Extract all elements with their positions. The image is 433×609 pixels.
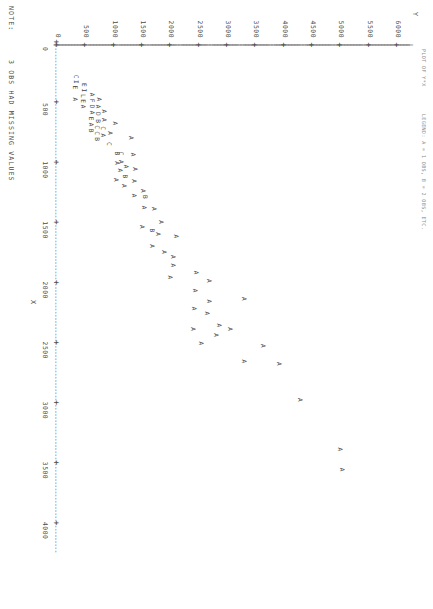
y-axis-tick: + xyxy=(137,41,145,49)
data-point-marker: A xyxy=(139,225,145,230)
data-point-marker: A xyxy=(337,447,343,452)
data-point-marker: A xyxy=(107,131,113,136)
note-text: 3 OBS HAD MISSING VALUES xyxy=(7,60,15,182)
data-point-marker: A xyxy=(114,161,120,166)
data-point-marker: E xyxy=(81,83,87,88)
x-tick-label: 1500 xyxy=(41,221,49,238)
data-point-marker: L xyxy=(80,94,86,99)
x-axis-tick: + xyxy=(52,340,60,345)
data-point-marker: A xyxy=(113,178,119,183)
data-point-marker: A xyxy=(339,468,345,473)
y-tick-label: 1000 xyxy=(111,6,119,38)
x-tick-label: 3000 xyxy=(41,402,49,419)
y-tick-label: 500 xyxy=(82,6,90,38)
data-point-marker: A xyxy=(121,184,127,189)
y-axis-tick: + xyxy=(80,41,88,49)
x-axis-tick: + xyxy=(52,160,60,165)
y-tick-label: 2000 xyxy=(167,6,175,38)
plot-header-legend: PLOT OF Y*X LEGEND: A = 1 OBS, B = 2 OBS… xyxy=(421,49,427,230)
x-tick-label: 500 xyxy=(41,103,49,116)
data-point-marker: A xyxy=(72,97,78,102)
x-axis-tick: + xyxy=(52,460,60,465)
data-point-marker: I xyxy=(73,80,79,85)
data-point-marker: A xyxy=(167,275,173,280)
data-point-marker: A xyxy=(193,271,199,276)
y-axis: ||||||||||||||||||||||||||||||||||||||||… xyxy=(59,41,415,49)
data-point-marker: A xyxy=(297,398,303,403)
x-axis-tick: + xyxy=(52,220,60,225)
y-tick-label: 5500 xyxy=(366,6,374,38)
x-tick-label: 2500 xyxy=(41,342,49,359)
data-point-marker: A xyxy=(129,153,135,158)
data-point-marker: E xyxy=(88,117,94,122)
data-point-marker: A xyxy=(227,327,233,332)
y-axis-tick: + xyxy=(109,41,117,49)
data-point-marker: B xyxy=(149,229,155,234)
data-point-marker: E xyxy=(72,85,78,90)
data-point-marker: A xyxy=(205,299,211,304)
data-point-marker: C xyxy=(73,75,79,80)
data-point-marker: B xyxy=(88,129,94,134)
data-point-marker: A xyxy=(88,123,94,128)
data-point-marker: A xyxy=(140,189,146,194)
y-tick-label: 3000 xyxy=(224,6,232,38)
data-point-marker: A xyxy=(89,93,95,98)
data-point-marker: B xyxy=(114,152,120,157)
data-point-marker: A xyxy=(198,342,204,347)
y-tick-label: 3500 xyxy=(252,6,260,38)
data-point-marker: A xyxy=(205,279,211,284)
x-axis-tick: + xyxy=(52,400,60,405)
y-tick-label: 6000 xyxy=(394,6,402,38)
y-tick-label: 1500 xyxy=(139,6,147,38)
y-axis-tick: + xyxy=(335,41,343,49)
data-point-marker: A xyxy=(141,206,147,211)
data-point-marker: A xyxy=(216,324,222,329)
data-point-marker: I xyxy=(80,88,86,93)
x-axis-tick: + xyxy=(52,100,60,105)
data-point-marker: A xyxy=(101,110,107,115)
y-axis-tick: + xyxy=(307,41,315,49)
data-point-marker: A xyxy=(213,333,219,338)
y-axis-tick: + xyxy=(392,41,400,49)
data-point-marker: E xyxy=(80,99,86,104)
x-tick-label: 4000 xyxy=(41,522,49,539)
data-point-marker: A xyxy=(276,362,282,367)
data-point-marker: D xyxy=(89,105,95,110)
y-tick-label: 4500 xyxy=(309,6,317,38)
data-point-marker: B xyxy=(94,119,100,124)
data-point-marker: F xyxy=(89,99,95,104)
y-axis-name: Y xyxy=(411,12,419,17)
x-tick-label: 2000 xyxy=(41,281,49,298)
note-label: NOTE: xyxy=(7,6,15,31)
data-point-marker: A xyxy=(132,167,138,172)
sas-plot-page: PLOT OF Y*X LEGEND: A = 1 OBS, B = 2 OBS… xyxy=(0,0,433,609)
y-tick-label: 0 xyxy=(54,6,62,38)
data-point-marker: C xyxy=(106,142,112,147)
data-point-marker: B xyxy=(122,174,128,179)
data-point-marker: A xyxy=(88,111,94,116)
data-point-marker: A xyxy=(240,297,246,302)
data-point-marker: A xyxy=(170,255,176,260)
data-point-marker: A xyxy=(260,344,266,349)
x-axis: ----------------------------------------… xyxy=(51,41,59,561)
data-point-marker: A xyxy=(128,136,134,141)
x-axis-dash: - xyxy=(52,549,59,553)
y-axis-tick: + xyxy=(279,41,287,49)
data-point-marker: A xyxy=(131,194,137,199)
x-tick-label: 1000 xyxy=(41,161,49,178)
data-point-marker: A xyxy=(131,179,137,184)
data-point-marker: A xyxy=(190,327,196,332)
data-point-marker: A xyxy=(191,307,197,312)
x-axis-tick: + xyxy=(52,280,60,285)
data-point-marker: A xyxy=(161,250,167,255)
y-axis-tick: + xyxy=(165,41,173,49)
data-point-marker: A xyxy=(204,312,210,317)
data-point-marker: A xyxy=(80,105,86,110)
data-point-marker: A xyxy=(172,235,178,240)
x-axis-name: X xyxy=(29,300,37,305)
y-tick-label: 4000 xyxy=(281,6,289,38)
y-tick-label: 5000 xyxy=(337,6,345,38)
data-point-marker: A xyxy=(111,122,117,127)
data-point-marker: B xyxy=(93,137,99,142)
data-point-marker: B xyxy=(141,195,147,200)
